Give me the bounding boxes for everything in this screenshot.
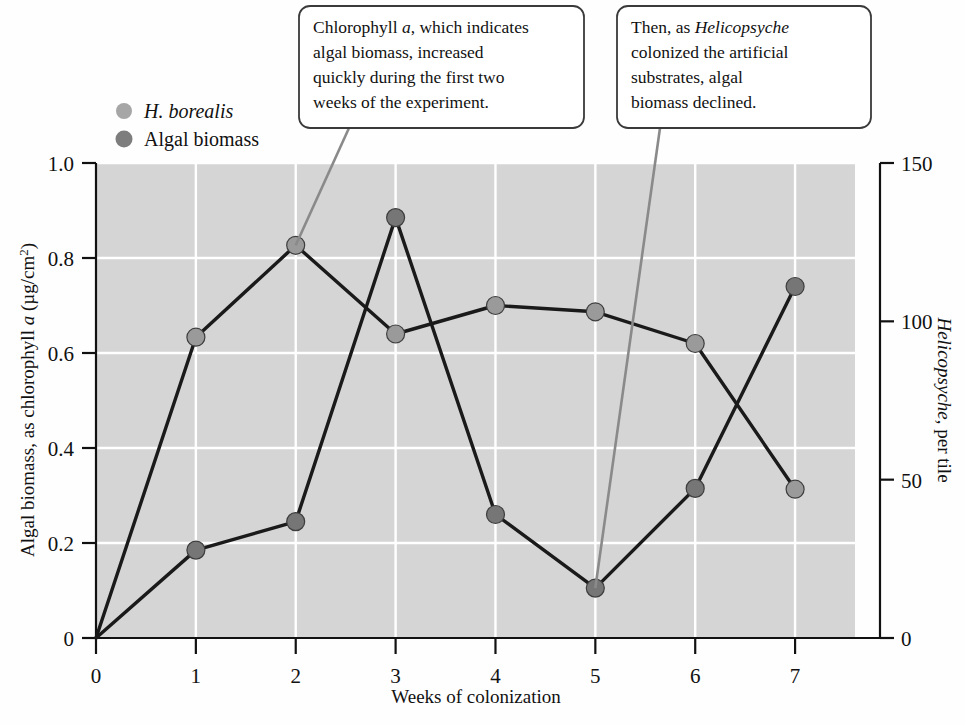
data-point — [387, 209, 405, 227]
y-axis-right-tick-label: 0 — [901, 627, 912, 651]
plot-background — [96, 163, 855, 638]
data-point — [487, 297, 505, 315]
y-axis-right-tick-label: 50 — [901, 469, 922, 493]
y-axis-right-tick-label: 150 — [901, 152, 933, 176]
data-point — [786, 278, 804, 296]
x-axis-tick-label: 2 — [290, 664, 301, 688]
legend-marker-h-borealis — [116, 103, 132, 119]
data-point — [586, 303, 604, 321]
data-point — [686, 335, 704, 353]
legend: H. borealis Algal biomass — [116, 100, 260, 151]
data-point — [387, 325, 405, 343]
x-axis-tick-label: 4 — [490, 664, 501, 688]
legend-label-h-borealis: H. borealis — [143, 100, 233, 122]
y-axis-right-tick-label: 100 — [901, 310, 933, 334]
y-axis-right-title: Helicopsyche, per tile — [934, 316, 955, 482]
data-point — [686, 479, 704, 497]
callout-increase: Chlorophyll a, which indicates algal bio… — [299, 6, 584, 128]
data-point — [487, 506, 505, 524]
data-point — [786, 480, 804, 498]
x-axis-title: Weeks of colonization — [391, 686, 561, 707]
y-axis-left-tick-label: 0.4 — [48, 437, 75, 461]
y-axis-left-ticks: 00.20.40.60.81.0 — [48, 152, 96, 651]
legend-label-algal-biomass: Algal biomass — [144, 128, 259, 151]
data-point — [187, 541, 205, 559]
x-axis-tick-label: 3 — [390, 664, 401, 688]
x-axis-ticks: 01234567 — [91, 638, 801, 688]
callout-decline: Then, as Helicopsyche colonized the arti… — [617, 6, 871, 128]
y-axis-left-tick-label: 0.8 — [48, 247, 74, 271]
y-axis-right-ticks: 050100150 — [880, 152, 933, 651]
x-axis-tick-label: 1 — [191, 664, 202, 688]
y-axis-left-title: Algal biomass, as chlorophyll a (µg/cm2) — [16, 243, 39, 557]
x-axis-tick-label: 0 — [91, 664, 102, 688]
x-axis-tick-label: 6 — [690, 664, 701, 688]
algal-biomass-helicopsyche-chart: 00.20.40.60.81.0 050100150 01234567 Alga… — [0, 0, 965, 725]
y-axis-left-tick-label: 1.0 — [48, 152, 74, 176]
y-axis-left-tick-label: 0 — [64, 627, 75, 651]
chart-page: 00.20.40.60.81.0 050100150 01234567 Alga… — [0, 0, 965, 725]
legend-marker-algal-biomass — [116, 131, 133, 148]
y-axis-left-tick-label: 0.6 — [48, 342, 74, 366]
y-axis-left-tick-label: 0.2 — [48, 532, 74, 556]
x-axis-tick-label: 7 — [790, 664, 801, 688]
x-axis-tick-label: 5 — [590, 664, 601, 688]
data-point — [187, 328, 205, 346]
data-point — [287, 513, 305, 531]
